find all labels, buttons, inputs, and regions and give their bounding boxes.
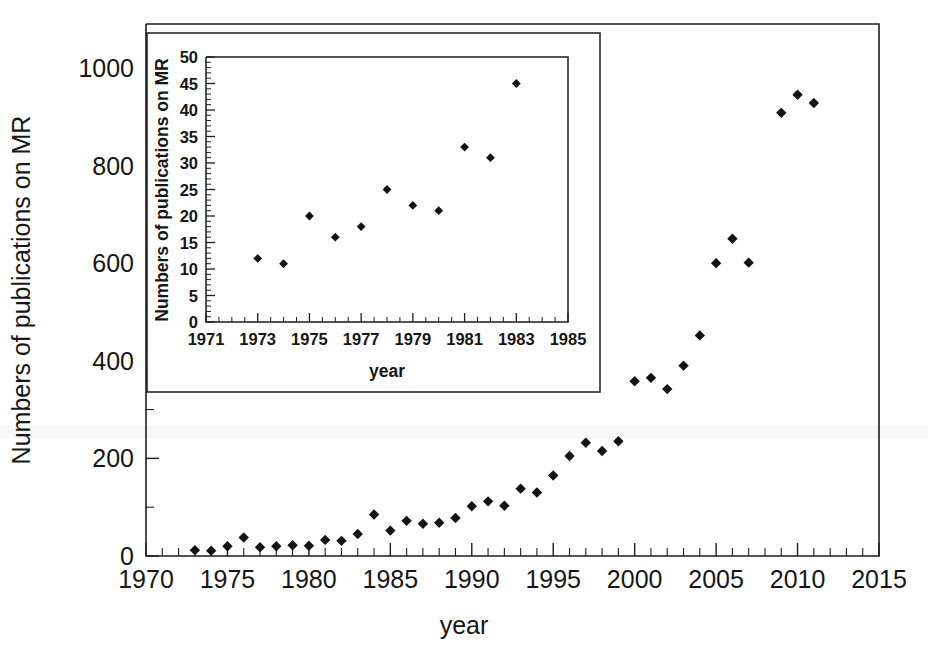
- main-x-tick-label: 1995: [525, 565, 581, 593]
- scan-artifact-band: [0, 425, 928, 439]
- inset-x-tick-label: 1985: [550, 330, 587, 348]
- data-point-marker: [646, 373, 656, 383]
- data-point-marker: [336, 536, 346, 546]
- data-point-marker: [678, 360, 688, 370]
- inset-y-axis-title: Numbers of publications on MR: [152, 58, 172, 322]
- inset-x-axis-title: year: [369, 361, 405, 381]
- main-y-tick-label: 400: [92, 347, 134, 375]
- main-x-axis-title: year: [440, 611, 489, 639]
- main-x-tick-label: 1980: [281, 565, 337, 593]
- data-point-marker: [743, 257, 753, 267]
- main-x-tick-label: 2015: [851, 565, 907, 593]
- data-point-marker: [483, 496, 493, 506]
- data-point-marker: [418, 519, 428, 529]
- data-point-marker: [304, 541, 314, 551]
- main-y-tick-label: 200: [92, 444, 134, 472]
- main-x-axis: [146, 543, 879, 556]
- data-point-marker: [727, 234, 737, 244]
- main-x-tick-label: 2005: [688, 565, 744, 593]
- inset-y-tick-label: 50: [180, 48, 198, 66]
- inset-y-tick-label: 30: [180, 154, 198, 172]
- data-point-marker: [401, 516, 411, 526]
- data-point-marker: [287, 540, 297, 550]
- data-point-marker: [190, 545, 200, 555]
- data-point-marker: [499, 501, 509, 511]
- main-y-tick-label: 800: [92, 152, 134, 180]
- inset-x-tick-label: 1973: [239, 330, 276, 348]
- inset-x-tick-label: 1977: [343, 330, 380, 348]
- data-point-marker: [271, 541, 281, 551]
- main-x-tick-label: 1985: [363, 565, 419, 593]
- data-point-marker: [695, 330, 705, 340]
- main-y-axis-title: Numbers of publications on MR: [7, 116, 35, 465]
- data-point-marker: [239, 532, 249, 542]
- main-y-tick-label: 1000: [78, 54, 134, 82]
- inset-y-tick-label: 45: [180, 75, 198, 93]
- data-point-marker: [581, 438, 591, 448]
- figure-container: 02004006008001000 1970197519801985199019…: [0, 0, 928, 651]
- data-point-marker: [353, 529, 363, 539]
- data-point-marker: [548, 470, 558, 480]
- data-point-marker: [629, 376, 639, 386]
- main-y-tick-label: 600: [92, 249, 134, 277]
- data-point-marker: [515, 483, 525, 493]
- inset-y-tick-label: 10: [180, 260, 198, 278]
- data-point-marker: [222, 541, 232, 551]
- data-point-marker: [255, 542, 265, 552]
- inset-x-tick-label: 1979: [394, 330, 431, 348]
- inset-x-tick-label: 1983: [498, 330, 535, 348]
- inset-y-tick-label: 0: [189, 313, 198, 331]
- data-point-marker: [662, 384, 672, 394]
- inset-y-tick-label: 40: [180, 101, 198, 119]
- data-point-marker: [320, 535, 330, 545]
- data-point-marker: [776, 108, 786, 118]
- data-point-marker: [564, 451, 574, 461]
- data-point-marker: [597, 446, 607, 456]
- data-point-marker: [450, 513, 460, 523]
- publications-chart-svg: 02004006008001000 1970197519801985199019…: [0, 0, 928, 651]
- data-point-marker: [809, 98, 819, 108]
- inset-y-tick-label: 20: [180, 207, 198, 225]
- data-point-marker: [792, 90, 802, 100]
- main-x-tick-label: 2010: [770, 565, 826, 593]
- data-point-marker: [532, 487, 542, 497]
- data-point-marker: [369, 509, 379, 519]
- main-x-tick-labels: 1970197519801985199019952000200520102015: [118, 565, 907, 593]
- inset-y-tick-label: 5: [189, 287, 198, 305]
- main-x-tick-label: 1975: [200, 565, 256, 593]
- inset-y-tick-label: 35: [180, 128, 198, 146]
- inset-y-tick-label: 15: [180, 234, 198, 252]
- main-x-tick-label: 1990: [444, 565, 500, 593]
- inset-x-tick-label: 1981: [446, 330, 483, 348]
- main-y-tick-labels: 02004006008001000: [78, 54, 134, 570]
- inset-y-tick-label: 25: [180, 181, 198, 199]
- main-x-tick-label: 2000: [607, 565, 663, 593]
- inset-x-tick-label: 1975: [291, 330, 328, 348]
- main-x-tick-label: 1970: [118, 565, 174, 593]
- data-point-marker: [467, 501, 477, 511]
- data-point-marker: [206, 545, 216, 555]
- data-point-marker: [385, 525, 395, 535]
- data-point-marker: [711, 258, 721, 268]
- inset-x-tick-label: 1971: [188, 330, 225, 348]
- data-point-marker: [434, 518, 444, 528]
